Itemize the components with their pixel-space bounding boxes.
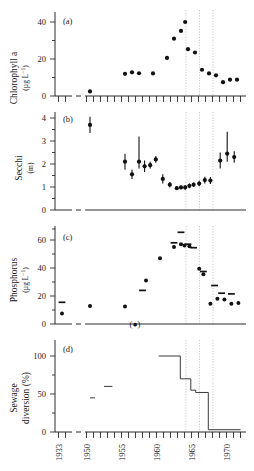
panel-d-event-lines (186, 340, 213, 432)
panel-c-tag: (c) (63, 232, 73, 242)
data-point (130, 70, 134, 74)
data-point (179, 242, 183, 246)
panel-a-xticks (59, 96, 241, 102)
panel-b-ytick-1: 1 (42, 182, 46, 192)
panel-c-ytick-20: 20 (38, 291, 47, 301)
panel-b-yunit: (m) (26, 162, 35, 173)
data-point (221, 80, 225, 84)
data-point (183, 185, 187, 189)
panel-b-tag: (b) (63, 114, 73, 124)
panel-c-ytick-0: 0 (42, 319, 46, 329)
data-point (225, 152, 229, 156)
data-point (214, 73, 218, 77)
panel-b-ytick-2: 2 (42, 159, 46, 169)
data-point (197, 181, 201, 185)
data-point (88, 304, 92, 308)
panel-d-step-line (90, 356, 241, 430)
panel-d-xticks (59, 432, 241, 438)
panel-b-ytick-3: 3 (42, 136, 46, 146)
data-point (203, 178, 207, 182)
panel-d-yunit: diversion (%) (21, 372, 32, 424)
panel-a-ylabel: Chlorophyll a (9, 51, 19, 104)
panel-d-ytick-100: 100 (33, 351, 46, 361)
data-point (179, 185, 183, 189)
data-point (207, 71, 211, 75)
panel-b-ylabel: Secchi (14, 155, 24, 181)
data-point (144, 279, 148, 283)
data-point (232, 155, 236, 159)
xtick-1965: 1965 (187, 444, 197, 461)
data-point (137, 71, 141, 75)
panel-c: Phosphorus (µg L−1) (c) 0 20 40 60 (9, 226, 246, 329)
panel-c-yunit: (µg L−1) (20, 267, 30, 293)
data-point (183, 20, 187, 24)
data-point (172, 245, 176, 249)
data-point (88, 89, 92, 93)
data-point (208, 302, 212, 306)
panel-c-yticks: 0 20 40 60 (38, 229, 56, 329)
panel-d-yticks: 0 50 100 (33, 351, 55, 437)
panel-c-ytick-60: 60 (38, 235, 47, 245)
panel-c-event-lines (186, 226, 213, 324)
data-point (148, 163, 152, 167)
data-point (123, 72, 127, 76)
panel-a-yticks: 0 20 40 (38, 17, 56, 101)
panel-d-ylabel: Sewage (9, 383, 19, 413)
xtick-1933: 1933 (54, 444, 64, 461)
data-point (172, 37, 176, 41)
panel-d-tag: (d) (63, 344, 73, 354)
panel-b-ytick-0: 0 (42, 205, 46, 215)
data-point (161, 177, 165, 181)
panel-a-xaxis (55, 96, 246, 102)
data-point (187, 184, 191, 188)
data-point (60, 312, 64, 316)
data-point (123, 305, 127, 309)
data-point (229, 302, 233, 306)
panel-d-ytick-50: 50 (38, 389, 47, 399)
data-point (201, 272, 205, 276)
data-point (197, 267, 201, 271)
data-point (228, 78, 232, 82)
data-point (218, 158, 222, 162)
data-point (193, 50, 197, 54)
panel-b-event-lines (186, 112, 213, 210)
xtick-1970: 1970 (222, 444, 232, 461)
data-point (208, 178, 212, 182)
panel-a-ytick-0: 0 (42, 91, 46, 101)
data-point (88, 123, 92, 127)
data-point (200, 68, 204, 72)
multi-panel-figure: Chlorophyll a (µg L−1) (a) 0 20 40 (0, 0, 254, 471)
data-point (236, 301, 240, 305)
data-point (123, 160, 127, 164)
panel-a-points (88, 20, 239, 94)
data-point (215, 297, 219, 301)
panel-c-ylabel: Phosphorus (9, 258, 19, 303)
data-point (158, 256, 162, 260)
data-point (179, 29, 183, 33)
panel-a-tag: (a) (63, 16, 73, 26)
data-point (165, 56, 169, 60)
data-point (175, 186, 179, 190)
panel-c-mean-dashes (59, 232, 235, 302)
data-point (168, 183, 172, 187)
data-point (154, 157, 158, 161)
panel-b-points (88, 117, 236, 190)
panel-d-xtick-labels: 1933 1950 1955 1960 1965 1970 (54, 444, 232, 461)
data-point (222, 298, 226, 302)
xtick-1950: 1950 (82, 444, 92, 461)
data-point (186, 47, 190, 51)
xtick-1955: 1955 (117, 444, 127, 461)
panel-a-yunit: (µg L−1) (20, 65, 30, 91)
figure-container: Chlorophyll a (µg L−1) (a) 0 20 40 (0, 0, 254, 471)
panel-a: Chlorophyll a (µg L−1) (a) 0 20 40 (9, 10, 246, 104)
panel-c-ytick-40: 40 (38, 263, 47, 273)
panel-d-xaxis: 1933 1950 1955 1960 1965 1970 (54, 432, 246, 461)
panel-a-ytick-20: 20 (38, 54, 47, 64)
data-point (192, 183, 196, 187)
panel-a-event-lines (186, 10, 213, 96)
data-point (151, 71, 155, 75)
data-point (130, 172, 134, 176)
data-point (137, 160, 141, 164)
xtick-1960: 1960 (152, 444, 162, 461)
panel-d-ytick-0: 0 (42, 427, 46, 437)
